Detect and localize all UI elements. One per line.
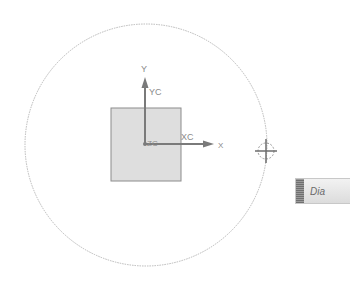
y-axis-label: Y [141,64,147,74]
grip-handle-icon[interactable] [296,179,304,203]
zc-axis-label: ZC [147,139,158,148]
xc-axis-label: XC [181,132,194,142]
y-axis-arrow-icon [142,77,149,88]
x-axis-label: X [218,141,224,150]
crosshair-target-icon[interactable] [255,139,277,163]
yc-axis-label: YC [149,87,162,97]
graphics-viewport[interactable]: Y YC X XC ZC [0,0,350,285]
dialog-tab[interactable]: Dia [295,178,350,204]
dialog-tab-label: Dia [310,186,325,197]
x-axis-arrow-icon [203,141,214,148]
